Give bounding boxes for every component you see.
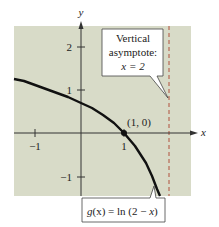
function-label: g(x) = ln (2 − x) bbox=[87, 205, 158, 218]
tick-label-y-2: 2 bbox=[67, 41, 73, 53]
tick-label-y-neg1: −1 bbox=[60, 171, 72, 183]
callout-line1: Vertical bbox=[116, 32, 150, 44]
tick-label-x-1: 1 bbox=[121, 140, 127, 152]
callout-line2: asymptote: bbox=[109, 46, 157, 58]
x-axis-arrow-icon bbox=[190, 131, 198, 136]
point-label: (1, 0) bbox=[127, 116, 151, 129]
callout-line3: x = 2 bbox=[120, 60, 145, 72]
point-1-0 bbox=[121, 130, 127, 136]
tick-label-x-neg1: −1 bbox=[29, 140, 41, 152]
graph: −1 1 2 1 −1 y x (1, 0) Vertical asymptot… bbox=[0, 0, 219, 227]
x-axis-label: x bbox=[200, 126, 206, 138]
y-axis-arrow-icon bbox=[79, 21, 84, 29]
y-axis-label: y bbox=[78, 6, 84, 18]
tick-label-y-1: 1 bbox=[67, 84, 73, 96]
